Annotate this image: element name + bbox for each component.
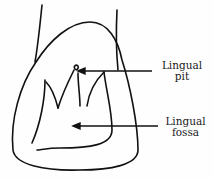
pit-arrow-head <box>78 68 85 74</box>
lingual-ridge-3 <box>78 73 80 106</box>
lingual-ridge-2 <box>58 70 74 108</box>
tooth-drawing <box>0 0 213 180</box>
lingual-pit-line2: pit <box>152 71 212 82</box>
lingual-ridge-4 <box>87 72 104 106</box>
lingual-ridge-1 <box>46 82 58 108</box>
lingual-pit-label: Lingual pit <box>152 60 212 82</box>
root-right-line <box>116 10 118 70</box>
lingual-fossa-line2: fossa <box>158 127 213 138</box>
pit-circle <box>74 65 78 69</box>
fossa-arrow-head <box>73 123 80 129</box>
tooth-diagram: Lingual pit Lingual fossa <box>0 0 213 180</box>
left-ridge <box>32 80 45 143</box>
lingual-fossa-label: Lingual fossa <box>158 116 213 138</box>
